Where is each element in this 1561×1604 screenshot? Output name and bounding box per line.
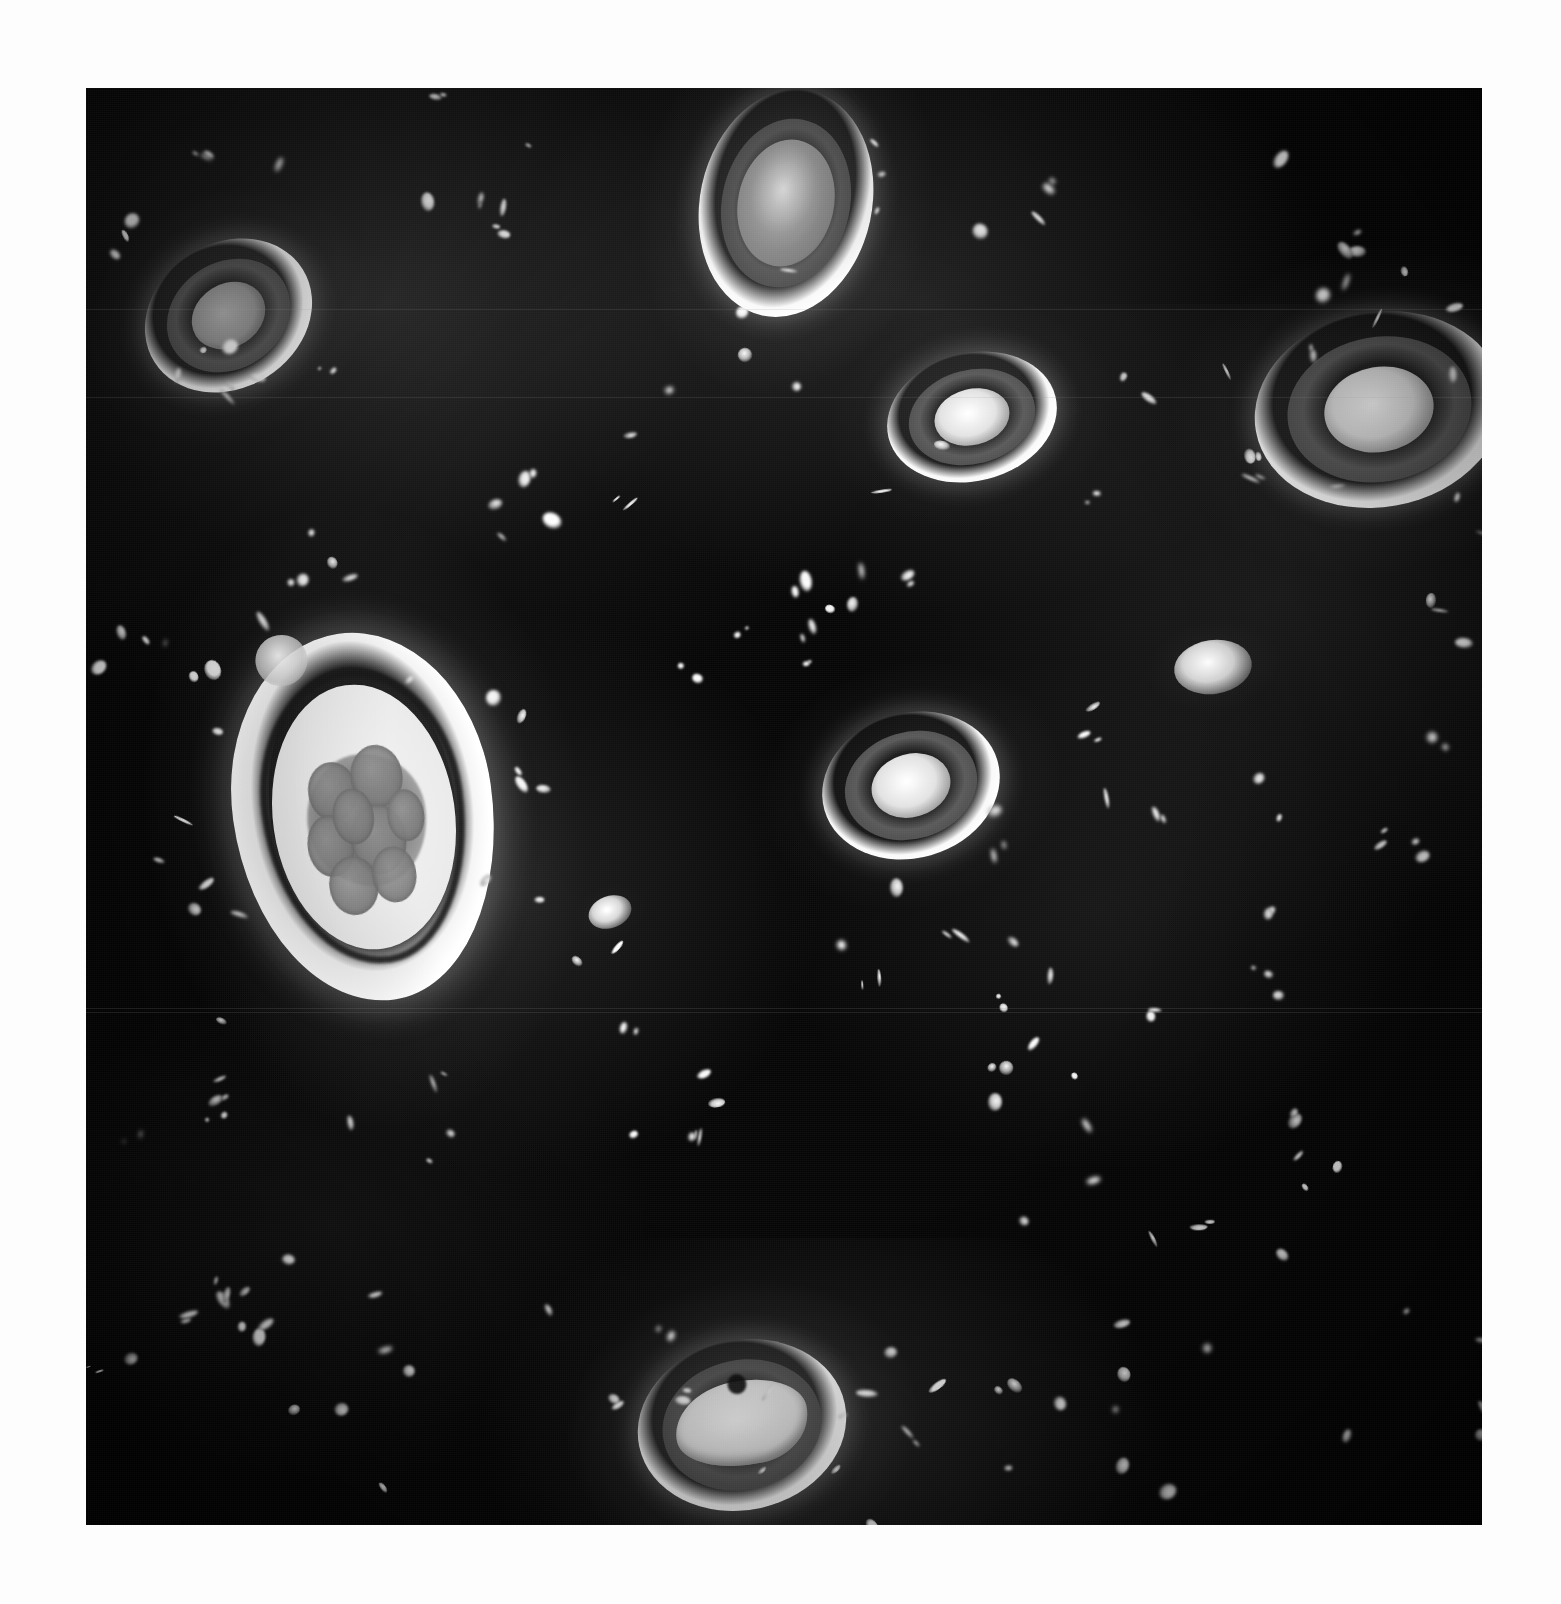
debris-particle xyxy=(1118,372,1127,383)
debris-particle xyxy=(1115,1366,1132,1385)
debris-particle xyxy=(1334,240,1356,263)
debris-particle xyxy=(115,624,127,640)
debris-particle xyxy=(628,1130,639,1140)
debris-particle xyxy=(1273,991,1284,1001)
debris-particle xyxy=(221,1286,232,1304)
debris-particle xyxy=(1113,1455,1131,1475)
debris-particle xyxy=(347,1115,355,1131)
debris-particle xyxy=(86,1365,91,1368)
debris-particle xyxy=(1275,813,1283,822)
debris-particle xyxy=(1476,1399,1482,1417)
debris-particle xyxy=(1112,1405,1119,1413)
debris-particle xyxy=(187,670,199,683)
debris-particle xyxy=(1400,265,1409,277)
debris-particle xyxy=(1094,737,1103,743)
debris-particle xyxy=(1241,473,1261,484)
debris-particle xyxy=(1410,836,1420,845)
debris-particle xyxy=(1425,592,1436,608)
debris-particle xyxy=(1285,1110,1305,1131)
debris-particle xyxy=(927,1377,948,1395)
ovum-center-right xyxy=(805,691,1018,880)
debris-particle xyxy=(1402,1307,1410,1315)
debris-particle xyxy=(219,1110,229,1120)
debris-particle xyxy=(883,1345,899,1359)
debris-particle xyxy=(498,198,507,217)
debris-particle xyxy=(686,1132,695,1142)
debris-particle xyxy=(366,1290,382,1299)
scan-seam xyxy=(86,1008,1482,1009)
debris-particle xyxy=(492,224,500,230)
debris-particle xyxy=(1202,1342,1213,1353)
debris-particle xyxy=(516,469,532,488)
debris-particle xyxy=(797,570,812,593)
debris-particle xyxy=(1270,148,1291,171)
debris-particle xyxy=(237,1285,251,1299)
micrograph-plate xyxy=(86,88,1482,1525)
ovum-top-center xyxy=(678,88,894,333)
debris-particle xyxy=(1473,1427,1482,1443)
debris-particle xyxy=(905,580,915,589)
debris-particle xyxy=(1160,814,1167,823)
debris-particle xyxy=(1455,638,1474,649)
debris-particle xyxy=(1424,729,1440,745)
debris-particle xyxy=(877,969,882,987)
debris-particle xyxy=(606,1392,621,1406)
debris-particle xyxy=(707,1097,725,1109)
debris-particle xyxy=(1453,492,1461,503)
debris-particle xyxy=(1475,530,1482,538)
debris-particle xyxy=(163,639,167,647)
debris-particle xyxy=(1440,743,1449,752)
debris-particle xyxy=(1313,286,1333,306)
debris-particle xyxy=(1140,390,1159,407)
debris-particle xyxy=(1041,181,1056,196)
debris-particle xyxy=(913,1439,921,1448)
debris-particle xyxy=(1157,1481,1180,1503)
debris-particle xyxy=(191,150,198,157)
debris-particle xyxy=(1026,1035,1042,1052)
debris-particle xyxy=(1251,966,1257,972)
debris-particle xyxy=(654,1326,661,1334)
debris-particle xyxy=(513,774,531,795)
debris-particle xyxy=(377,1482,388,1495)
debris-particle xyxy=(281,1254,296,1266)
debris-particle xyxy=(1146,1011,1156,1023)
debris-particle xyxy=(1331,1160,1343,1174)
debris-particle xyxy=(513,766,523,778)
debris-particle xyxy=(1085,1175,1101,1186)
debris-particle xyxy=(873,206,880,215)
debris-particle xyxy=(525,142,533,148)
debris-particle xyxy=(107,247,121,261)
debris-particle xyxy=(734,630,742,638)
debris-particle xyxy=(951,927,971,944)
debris-particle xyxy=(1085,500,1090,503)
debris-particle xyxy=(697,1128,702,1146)
debris-particle xyxy=(790,585,799,598)
debris-particle xyxy=(695,1067,712,1081)
debris-particle xyxy=(900,1425,915,1440)
ovum-upper-right-clipped xyxy=(1239,292,1482,527)
ovum-bottom-center-larva xyxy=(622,1320,863,1525)
illumination-glow-top-center xyxy=(505,88,1343,620)
debris-particle xyxy=(1444,301,1464,314)
debris-particle xyxy=(333,1401,350,1417)
ovum-small-right xyxy=(1171,635,1256,699)
debris-particle xyxy=(251,1327,266,1347)
ovum-upper-left xyxy=(116,208,341,424)
debris-particle xyxy=(317,366,322,371)
debris-particle xyxy=(1150,805,1162,822)
debris-particle xyxy=(1263,970,1274,980)
debris-particle xyxy=(88,657,109,678)
organism-body xyxy=(1171,635,1256,699)
debris-particle xyxy=(120,229,130,243)
debris-particle xyxy=(1222,363,1232,380)
debris-particle xyxy=(1475,1337,1482,1345)
debris-particle xyxy=(864,1516,881,1525)
debris-particle xyxy=(429,93,443,102)
debris-particle xyxy=(1047,967,1054,984)
debris-particle xyxy=(1005,935,1020,949)
debris-particle xyxy=(1189,1224,1207,1231)
debris-particle xyxy=(1255,474,1266,480)
debris-particle xyxy=(1030,210,1047,227)
debris-particle xyxy=(294,571,311,588)
debris-particle xyxy=(402,1364,417,1379)
